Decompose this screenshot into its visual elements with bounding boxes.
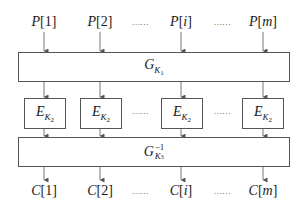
- output-var: C: [249, 183, 258, 198]
- output-var: C: [170, 183, 179, 198]
- e-k2-label: EK2: [92, 104, 110, 124]
- input-label-i: P[i]: [170, 14, 192, 30]
- output-index: 2: [101, 183, 108, 198]
- output-label-2: C[2]: [87, 183, 113, 199]
- output-label-1: C[1]: [31, 183, 57, 199]
- ellipsis: ……: [214, 186, 231, 196]
- ellipsis: ……: [132, 17, 149, 27]
- e-k2-label: EK2: [173, 104, 191, 124]
- g-inverse-k3-block: G −1 K3: [18, 137, 290, 167]
- e-k2-label: EK2: [254, 104, 272, 124]
- ellipsis: ……: [214, 17, 231, 27]
- output-index: m: [263, 183, 273, 198]
- input-label-1: P[1]: [32, 14, 57, 30]
- input-label-2: P[2]: [88, 14, 113, 30]
- output-label-m: C[m]: [249, 183, 278, 199]
- output-label-i: C[i]: [170, 183, 193, 199]
- input-var: P: [249, 14, 258, 29]
- g-inverse-k3-label: G −1 K3: [144, 143, 165, 162]
- ellipsis: ……: [132, 186, 149, 196]
- input-label-m: P[m]: [249, 14, 277, 30]
- output-index: 1: [45, 183, 52, 198]
- input-index: m: [262, 14, 272, 29]
- input-var: P: [88, 14, 97, 29]
- input-var: P: [170, 14, 179, 29]
- e-k2-block-m: EK2: [242, 98, 284, 129]
- g-k1-block: GK1: [18, 52, 290, 82]
- input-var: P: [32, 14, 41, 29]
- e-k2-block-2: EK2: [80, 98, 122, 129]
- ellipsis: ……: [214, 106, 231, 116]
- e-k2-block-i: EK2: [161, 98, 203, 129]
- output-var: C: [31, 183, 40, 198]
- ellipsis: ……: [132, 106, 149, 116]
- e-k2-block-1: EK2: [24, 98, 66, 129]
- g-k1-label: GK1: [144, 57, 164, 77]
- e-k2-label: EK2: [36, 104, 54, 124]
- output-var: C: [87, 183, 96, 198]
